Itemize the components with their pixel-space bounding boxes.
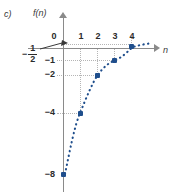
data-point	[61, 172, 66, 177]
data-point	[78, 111, 83, 116]
data-point	[129, 44, 134, 49]
data-point	[112, 58, 117, 63]
data-curve	[0, 0, 182, 192]
data-point	[95, 73, 100, 78]
figure-graph: c) f(n) n 0 1 2 3 4 −1 −2 −4 −8 − 1 2	[0, 0, 182, 192]
